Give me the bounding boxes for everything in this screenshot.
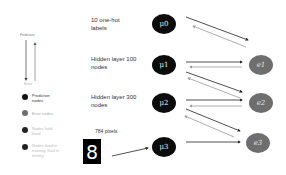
prediction-node-mu3: μ3 bbox=[152, 137, 176, 157]
error-node-e1: e1 bbox=[249, 55, 273, 75]
connection-arrows bbox=[0, 0, 286, 175]
prediction-node-mu2: μ2 bbox=[152, 93, 176, 113]
error-node-e3: e3 bbox=[246, 133, 270, 153]
prediction-node-mu0: μ0 bbox=[152, 14, 176, 34]
prediction-node-mu1: μ1 bbox=[152, 55, 176, 75]
error-node-e2: e2 bbox=[249, 93, 273, 113]
